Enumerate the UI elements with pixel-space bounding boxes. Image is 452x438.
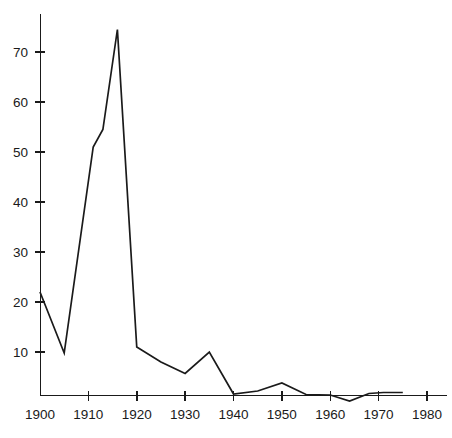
x-tick-label-1930: 1930 [170,407,200,422]
x-tick-label-1910: 1910 [73,407,103,422]
y-tick-label-60: 60 [13,95,28,110]
x-tick-label-1900: 1900 [25,407,55,422]
x-tick-label-1970: 1970 [364,407,394,422]
y-tick-label-70: 70 [13,45,28,60]
y-axis-tick-labels: 10203040506070 [13,45,28,360]
x-tick-label-1980: 1980 [412,407,442,422]
x-tick-label-1940: 1940 [218,407,248,422]
x-tick-label-1960: 1960 [315,407,345,422]
y-axis: 10203040506070 [13,14,45,396]
y-tick-label-20: 20 [13,295,28,310]
x-tick-label-1920: 1920 [122,407,152,422]
y-tick-label-50: 50 [13,145,28,160]
data-series-line [40,30,403,402]
x-axis-tick-labels: 190019101920193019401950196019701980 [25,407,442,422]
line-chart-canvas: 10203040506070 1900191019201930194019501… [0,0,452,438]
x-tick-label-1950: 1950 [267,407,297,422]
plot-area [40,30,403,402]
chart-figure: 10203040506070 1900191019201930194019501… [0,0,452,438]
y-tick-label-10: 10 [13,345,28,360]
y-tick-label-40: 40 [13,195,28,210]
y-tick-label-30: 30 [13,245,28,260]
x-axis: 190019101920193019401950196019701980 [25,391,447,422]
